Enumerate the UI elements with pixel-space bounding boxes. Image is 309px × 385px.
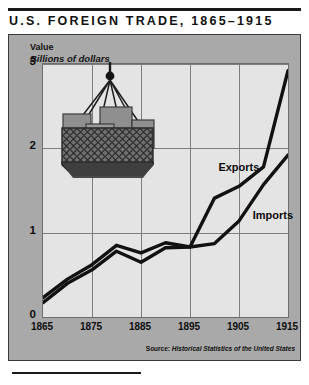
crane-hook-icon	[106, 72, 115, 81]
gridline-x-1915	[288, 64, 289, 317]
series-label-imports: Imports	[253, 209, 293, 221]
y-tick-label-0: 0	[20, 308, 36, 320]
y-tick-label-1: 1	[20, 224, 36, 236]
source-prefix: Source:	[146, 345, 172, 352]
top-rule	[8, 8, 301, 11]
chart-page: U.S. FOREIGN TRADE, 1865–1915 Value Bill…	[0, 0, 309, 385]
source-note: Source: Historical Statistics of the Uni…	[146, 345, 295, 352]
cargo-sling-illustration	[56, 62, 164, 196]
source-work: Historical Statistics of the United Stat…	[172, 345, 295, 352]
cargo-net-icon	[62, 128, 153, 178]
y-tick-label-2: 2	[20, 139, 36, 151]
y-axis-title: Value	[30, 42, 54, 52]
x-tick-label-1905: 1905	[218, 321, 258, 332]
x-tick-label-1895: 1895	[169, 321, 209, 332]
x-tick-label-1885: 1885	[120, 321, 160, 332]
x-tick-label-1865: 1865	[22, 321, 62, 332]
y-tick-label-3: 3	[20, 55, 36, 67]
series-label-exports: Exports	[218, 161, 259, 173]
page-title: U.S. FOREIGN TRADE, 1865–1915	[9, 14, 274, 28]
x-tick-label-1915: 1915	[267, 321, 307, 332]
x-tick-label-1875: 1875	[71, 321, 111, 332]
bottom-rule	[12, 372, 141, 374]
